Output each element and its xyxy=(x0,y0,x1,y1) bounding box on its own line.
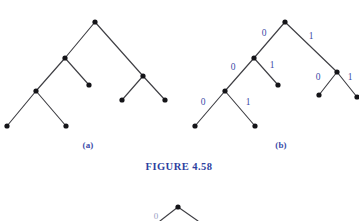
edge-label-left-child-to-left-left-child: 0 xyxy=(231,62,236,72)
tree-node-root xyxy=(92,19,97,24)
edge-label-root-to-right-child: 1 xyxy=(309,31,314,41)
edge-label-right-child-to-right-left-leaf: 0 xyxy=(316,72,321,82)
edge-label-right-child-to-right-right-leaf: 1 xyxy=(348,72,353,82)
tree-edge-right-child-to-right-left-leaf xyxy=(122,76,143,100)
tree-node-left-left-child xyxy=(222,88,227,93)
tree-edge-left-left-child-to-left-left-leaf-b xyxy=(36,91,66,126)
edge-label-left-child-to-left-right-leaf: 1 xyxy=(270,60,275,70)
partial-edge-1 xyxy=(178,207,198,221)
tree-node-left-left-leaf-a xyxy=(4,123,9,128)
partial-edge-0 xyxy=(160,207,178,221)
tree-node-root xyxy=(282,19,287,24)
figure-caption: FIGURE 4.58 xyxy=(146,161,213,172)
tree-edge-root-to-right-child xyxy=(285,22,337,72)
tree-edge-left-left-child-to-left-left-leaf-a xyxy=(195,91,225,126)
edge-label-root-to-left-child: 0 xyxy=(262,28,267,38)
edge-label-left-left-child-to-left-left-leaf-a: 0 xyxy=(201,97,206,107)
tree-edge-left-child-to-left-left-child xyxy=(225,58,254,91)
tree-node-right-left-leaf xyxy=(119,97,124,102)
tree-edge-root-to-right-child xyxy=(95,22,143,76)
partial-next-figure: 0 xyxy=(154,204,198,221)
partial-apex-node xyxy=(175,204,180,209)
tree-node-right-child xyxy=(140,73,145,78)
subfigure-a-tree: (a) xyxy=(4,19,167,150)
tree-node-left-right-leaf xyxy=(86,82,91,87)
figure-canvas: (a) 01010101(b) 0 FIGURE 4.58 xyxy=(0,0,359,221)
tree-node-right-child xyxy=(334,69,339,74)
tree-node-left-left-leaf-b xyxy=(252,123,257,128)
subfigure-label-b: (b) xyxy=(275,140,287,150)
tree-edge-left-child-to-left-right-leaf xyxy=(254,58,278,85)
tree-edge-left-child-to-left-left-child xyxy=(36,58,65,91)
tree-node-right-left-leaf xyxy=(316,92,321,97)
tree-edge-left-left-child-to-left-left-leaf-a xyxy=(7,91,36,126)
tree-node-left-child xyxy=(62,55,67,60)
tree-edge-root-to-left-child xyxy=(254,22,285,58)
edge-label-left-left-child-to-left-left-leaf-b: 1 xyxy=(246,97,251,107)
partial-edge-label: 0 xyxy=(154,211,159,221)
subfigure-b-tree: 01010101(b) xyxy=(192,19,359,150)
tree-node-left-right-leaf xyxy=(275,82,280,87)
tree-node-left-left-leaf-b xyxy=(63,123,68,128)
tree-node-left-child xyxy=(251,55,256,60)
tree-edge-right-child-to-right-left-leaf xyxy=(319,72,337,95)
tree-node-left-left-child xyxy=(33,88,38,93)
tree-edge-root-to-left-child xyxy=(65,22,95,58)
tree-node-left-left-leaf-a xyxy=(192,123,197,128)
tree-edge-left-child-to-left-right-leaf xyxy=(65,58,89,85)
subfigure-label-a: (a) xyxy=(82,140,93,150)
tree-edge-right-child-to-right-right-leaf xyxy=(143,76,165,100)
figure-4-58-container: (a) 01010101(b) 0 FIGURE 4.58 xyxy=(0,0,359,221)
tree-node-right-right-leaf xyxy=(162,97,167,102)
tree-edge-left-left-child-to-left-left-leaf-b xyxy=(225,91,255,126)
